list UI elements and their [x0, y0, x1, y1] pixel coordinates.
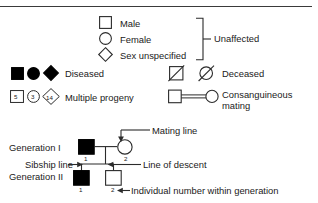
generation-two-label: Generation II	[9, 171, 63, 182]
male-square-icon	[99, 16, 112, 29]
individual-number-label: Individual number within generation	[131, 185, 279, 196]
unaffected-label: Unaffected	[214, 33, 259, 44]
sibship-line-callout-arrow	[68, 160, 84, 170]
sibship-line-label: Sibship line	[25, 159, 73, 170]
consanguineous-mating-icon	[168, 89, 219, 104]
pedigree-legend-figure: Male Female Sex unspecified Unaffected	[0, 0, 318, 203]
gen1-individual-1-icon	[78, 139, 95, 155]
multiple-progeny-label: Multiple progeny	[65, 92, 134, 103]
consanguineous-label-line1: Consanguineous	[222, 89, 292, 100]
gen2-individual-1-icon	[73, 170, 90, 186]
progeny-circle-number: 3	[31, 93, 34, 100]
mating-line-callout-arrow	[116, 128, 152, 143]
female-circle-icon	[99, 32, 112, 45]
generation-one-label: Generation I	[9, 142, 61, 153]
diseased-label: Diseased	[65, 68, 104, 79]
line-of-descent-label: Line of descent	[143, 159, 207, 170]
line-of-descent-callout-arrow	[107, 160, 143, 170]
diseased-filled-diamond-icon	[43, 65, 59, 81]
sex-unspecified-label: Sex unspecified	[120, 50, 186, 61]
deceased-slashed-square-icon	[169, 66, 184, 81]
deceased-label: Deceased	[222, 68, 264, 79]
consanguineous-label-line2: mating	[222, 100, 250, 111]
mating-line-label: Mating line	[152, 125, 197, 136]
gen2-individual-1-number: 1	[79, 186, 82, 193]
progeny-square-number: 5	[14, 93, 17, 100]
individual-number-callout-arrow	[117, 186, 131, 196]
progeny-diamond-number: 14	[46, 94, 53, 101]
female-label: Female	[120, 34, 151, 45]
male-label: Male	[120, 18, 140, 29]
deceased-slashed-circle-icon	[199, 66, 214, 81]
gen2-individual-2-number: 2	[111, 186, 114, 193]
diseased-filled-circle-icon	[27, 67, 40, 80]
gen1-individual-1-number: 1	[84, 155, 87, 162]
unaffected-bracket	[192, 17, 216, 61]
diseased-filled-square-icon	[11, 67, 24, 80]
sex-unspecified-diamond-icon	[98, 47, 113, 62]
gen2-individual-2-icon	[105, 170, 122, 186]
top-divider-rule	[0, 6, 312, 7]
